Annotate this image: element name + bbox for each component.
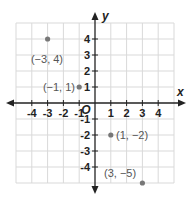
x-tick-label: -4 [27, 107, 38, 119]
point-marker [77, 84, 82, 89]
coordinate-plane: x y -4 -3 -2 -1 1 2 3 4 O [0, 0, 187, 198]
y-tick-label: -2 [80, 129, 90, 141]
y-axis-up-arrow-icon [92, 12, 99, 20]
y-tick-label: 3 [84, 49, 90, 61]
x-axis-left-arrow-icon [6, 100, 14, 107]
x-tick-label: 1 [108, 107, 114, 119]
y-tick-label: 1 [84, 81, 90, 93]
x-tick-label: 2 [124, 107, 130, 119]
y-tick-label: 4 [84, 33, 91, 45]
point-marker [45, 36, 50, 41]
x-tick-label: -3 [43, 107, 53, 119]
x-axis-label: x [176, 85, 185, 99]
y-axis-label: y [101, 9, 110, 23]
x-axis-right-arrow-icon [178, 100, 186, 107]
x-tick-label: 3 [139, 107, 145, 119]
point-label: (−3, 4) [31, 53, 63, 65]
x-axis: x [6, 85, 186, 107]
point-label: (3, −5) [104, 167, 136, 179]
point-marker [108, 132, 113, 137]
y-tick-label: -3 [80, 145, 90, 157]
y-axis-down-arrow-icon [92, 186, 99, 194]
point-marker [140, 180, 145, 185]
y-tick-label: 2 [84, 65, 90, 77]
y-tick-label: -1 [80, 113, 90, 125]
y-tick-label: -4 [80, 161, 91, 173]
x-tick-label: 4 [155, 107, 162, 119]
point-label: (1, −2) [116, 129, 148, 141]
x-tick-label: -2 [59, 107, 69, 119]
point-label: (−1, 1) [43, 81, 75, 93]
